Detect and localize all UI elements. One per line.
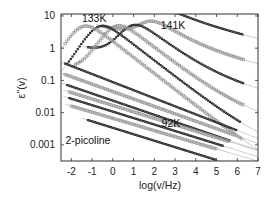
x-tick-label: 0 — [110, 166, 116, 177]
y-tick-label: 0.01 — [36, 107, 56, 118]
annotation-133k: 133K — [82, 12, 107, 24]
annotation-141k: 141K — [161, 19, 186, 31]
data-series — [61, 3, 258, 173]
chart-svg: -2-1012345671010.10.010.001 log(v/Hz) ε'… — [0, 0, 272, 198]
annotations: 133K141K92K2-picoline — [65, 12, 185, 145]
annotation-92k: 92K — [162, 117, 181, 129]
x-tick-label: 6 — [234, 166, 240, 177]
x-tick-label: 4 — [193, 166, 199, 177]
y-tick-label: 1 — [49, 43, 55, 54]
dielectric-loss-chart: -2-1012345671010.10.010.001 log(v/Hz) ε'… — [0, 0, 272, 198]
x-tick-label: 7 — [255, 166, 261, 177]
y-tick-label: 0.001 — [30, 139, 55, 150]
x-tick-label: 2 — [152, 166, 158, 177]
x-tick-label: 5 — [214, 166, 220, 177]
x-tick-label: 1 — [131, 166, 137, 177]
y-tick-label: 0.1 — [41, 75, 55, 86]
y-axis-label: ε''(v) — [15, 78, 27, 99]
y-tick-label: 10 — [44, 10, 56, 21]
x-tick-label: 3 — [172, 166, 178, 177]
x-axis-label: log(v/Hz) — [139, 179, 181, 191]
annotation-2picoline: 2-picoline — [65, 134, 110, 146]
x-tick-label: -2 — [67, 166, 76, 177]
x-tick-label: -1 — [88, 166, 97, 177]
